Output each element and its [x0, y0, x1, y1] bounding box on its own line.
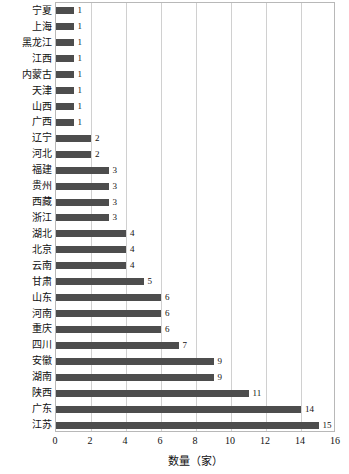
bar-value-label: 3 — [113, 198, 118, 207]
bar-value-label: 1 — [78, 22, 83, 31]
bar-row: 湖南9 — [56, 369, 334, 385]
bar — [56, 422, 319, 429]
category-label: 福建 — [32, 165, 52, 175]
bar-value-label: 1 — [78, 70, 83, 79]
category-label: 山西 — [32, 102, 52, 112]
bar — [56, 119, 74, 126]
bar-value-label: 4 — [130, 245, 135, 254]
category-label: 云南 — [32, 261, 52, 271]
category-label: 河北 — [32, 149, 52, 159]
bar-value-label: 1 — [78, 38, 83, 47]
bar-row: 黑龙江1 — [56, 35, 334, 51]
category-label: 内蒙古 — [22, 70, 52, 80]
bar — [56, 278, 144, 285]
bar-value-label: 1 — [78, 6, 83, 15]
category-label: 贵州 — [32, 181, 52, 191]
category-label: 安徽 — [32, 356, 52, 366]
category-label: 北京 — [32, 245, 52, 255]
category-label: 湖北 — [32, 229, 52, 239]
bar-row: 湖北4 — [56, 226, 334, 242]
bar-row: 福建3 — [56, 162, 334, 178]
bar-row: 宁夏1 — [56, 3, 334, 19]
bar-row: 天津1 — [56, 83, 334, 99]
category-label: 陕西 — [32, 388, 52, 398]
bar-value-label: 2 — [95, 134, 100, 143]
bar — [56, 310, 161, 317]
category-label: 宁夏 — [32, 6, 52, 16]
bar-row: 广东14 — [56, 401, 334, 417]
bar — [56, 214, 109, 221]
bar-value-label: 15 — [323, 421, 332, 430]
x-tick-label: 10 — [225, 434, 235, 448]
bar-value-label: 6 — [165, 293, 170, 302]
bar-row: 广西1 — [56, 114, 334, 130]
x-tick-label: 0 — [53, 434, 58, 448]
bar — [56, 406, 301, 413]
bar-rows: 宁夏1上海1黑龙江1江西1内蒙古1天津1山西1广西1辽宁2河北2福建3贵州3西藏… — [56, 3, 334, 431]
bar-row: 江苏15 — [56, 417, 334, 433]
bar-value-label: 9 — [218, 373, 223, 382]
bar — [56, 151, 91, 158]
bar-value-label: 4 — [130, 229, 135, 238]
bar-value-label: 11 — [253, 389, 262, 398]
bar — [56, 7, 74, 14]
bar-value-label: 2 — [95, 150, 100, 159]
bar — [56, 167, 109, 174]
bar-row: 甘肃5 — [56, 274, 334, 290]
bar-value-label: 9 — [218, 357, 223, 366]
bar-row: 浙江3 — [56, 210, 334, 226]
bar-row: 内蒙古1 — [56, 67, 334, 83]
bar-row: 河北2 — [56, 146, 334, 162]
bar-row: 山西1 — [56, 99, 334, 115]
category-label: 上海 — [32, 22, 52, 32]
category-label: 四川 — [32, 340, 52, 350]
bar-row: 云南4 — [56, 258, 334, 274]
bar — [56, 87, 74, 94]
bar-row: 河南6 — [56, 306, 334, 322]
category-label: 西藏 — [32, 197, 52, 207]
bar-value-label: 5 — [148, 277, 153, 286]
bar-row: 西藏3 — [56, 194, 334, 210]
bar-value-label: 1 — [78, 118, 83, 127]
category-label: 重庆 — [32, 324, 52, 334]
bar — [56, 39, 74, 46]
category-label: 广西 — [32, 117, 52, 127]
bar — [56, 326, 161, 333]
bar-value-label: 1 — [78, 86, 83, 95]
bar — [56, 23, 74, 30]
bar — [56, 199, 109, 206]
bar — [56, 246, 126, 253]
bar-value-label: 3 — [113, 213, 118, 222]
category-label: 山东 — [32, 293, 52, 303]
x-tick-label: 16 — [330, 434, 340, 448]
bar — [56, 71, 74, 78]
bar-row: 山东6 — [56, 290, 334, 306]
bar — [56, 358, 214, 365]
bar-row: 安徽9 — [56, 353, 334, 369]
bar — [56, 390, 249, 397]
x-tick-label: 6 — [158, 434, 163, 448]
x-tick-label: 8 — [193, 434, 198, 448]
bar-value-label: 6 — [165, 325, 170, 334]
category-label: 辽宁 — [32, 133, 52, 143]
bar-row: 贵州3 — [56, 178, 334, 194]
bar-row: 江西1 — [56, 51, 334, 67]
bar-row: 上海1 — [56, 19, 334, 35]
bar-chart: 宁夏1上海1黑龙江1江西1内蒙古1天津1山西1广西1辽宁2河北2福建3贵州3西藏… — [0, 0, 349, 474]
bar — [56, 294, 161, 301]
x-axis-title: 数量（家） — [55, 452, 335, 468]
bar — [56, 230, 126, 237]
bar-value-label: 3 — [113, 166, 118, 175]
bar-row: 四川7 — [56, 337, 334, 353]
category-label: 甘肃 — [32, 277, 52, 287]
bar — [56, 135, 91, 142]
bar-row: 重庆6 — [56, 322, 334, 338]
plot-area: 宁夏1上海1黑龙江1江西1内蒙古1天津1山西1广西1辽宁2河北2福建3贵州3西藏… — [55, 2, 335, 432]
x-tick-label: 4 — [123, 434, 128, 448]
bar-row: 辽宁2 — [56, 130, 334, 146]
category-label: 黑龙江 — [22, 38, 52, 48]
category-label: 广东 — [32, 404, 52, 414]
bar-row: 北京4 — [56, 242, 334, 258]
bar-value-label: 1 — [78, 54, 83, 63]
x-tick-label: 14 — [295, 434, 305, 448]
